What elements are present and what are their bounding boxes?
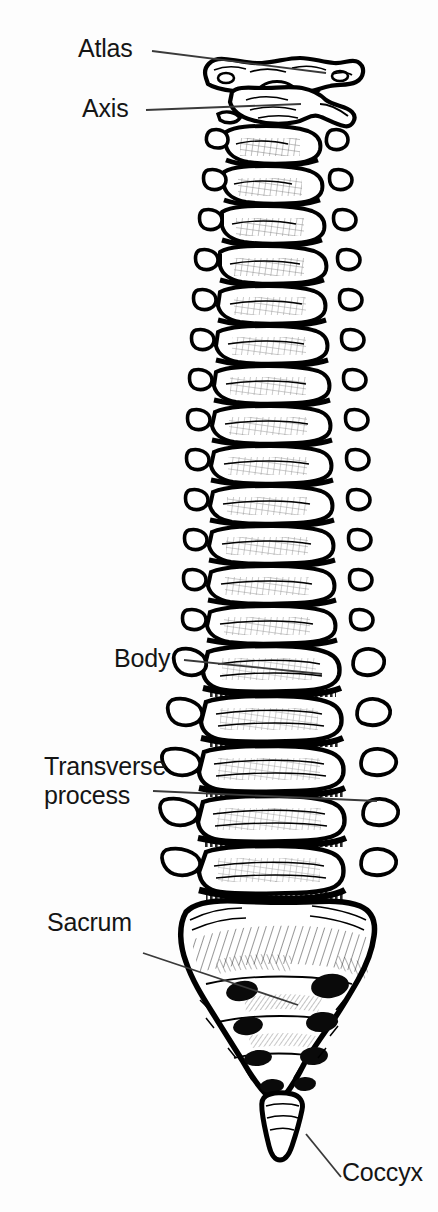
vertebra-t2 [192, 326, 365, 366]
spine-group [143, 51, 398, 1177]
vertebra-t8 [184, 566, 373, 606]
label-atlas: Atlas [78, 34, 133, 63]
vertebra-l4 [160, 796, 398, 847]
sacrum [181, 901, 375, 1099]
label-transverse-process-line2: process [44, 781, 130, 810]
vertebra-t9 [183, 606, 374, 646]
vertebra-c4 [204, 166, 353, 206]
vertebra-l2 [168, 696, 390, 747]
cervical-vertebrae-c3-c7 [196, 126, 361, 286]
lumbar-vertebrae [160, 646, 398, 900]
coccyx [262, 1093, 303, 1160]
vertebra-c5 [200, 206, 357, 246]
thoracic-vertebrae [183, 286, 374, 646]
vertebral-column-figure: Atlas Axis Body Transverse process Sacru… [0, 0, 438, 1212]
vertebra-l1 [174, 646, 384, 697]
vertebra-t5 [187, 446, 370, 486]
vertebra-c3 [206, 126, 348, 166]
label-sacrum: Sacrum [47, 908, 132, 937]
label-transverse-process-line1: Transverse [44, 752, 166, 781]
spine-illustration [0, 0, 438, 1212]
label-coccyx: Coccyx [342, 1158, 423, 1187]
vertebra-t1 [194, 286, 363, 326]
label-axis: Axis [82, 94, 128, 123]
vertebra-t4 [188, 406, 369, 446]
vertebra-t6 [186, 486, 371, 526]
vertebra-l5 [162, 846, 396, 900]
coccyx-leader-line [306, 1134, 341, 1177]
vertebra-t3 [190, 366, 367, 406]
vertebra-c6 [196, 246, 361, 286]
vertebra-l3 [162, 746, 396, 797]
label-body: Body [114, 644, 170, 673]
vertebra-t7 [185, 526, 372, 566]
